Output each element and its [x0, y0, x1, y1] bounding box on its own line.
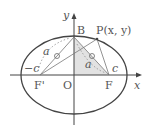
point-P — [96, 38, 99, 41]
ellipse-diagram: y x O B P(x, y) F' F −c c a a — [0, 0, 152, 137]
B-label: B — [77, 24, 85, 37]
a-label-right: a — [85, 58, 92, 71]
F-label: F — [105, 79, 113, 92]
a-label-left: a — [43, 45, 50, 58]
x-axis-arrow-icon — [136, 73, 142, 78]
neg-c-label: −c — [24, 62, 39, 75]
y-axis-arrow-icon — [72, 13, 77, 19]
Fprime-label: F' — [34, 79, 45, 92]
c-label: c — [112, 62, 118, 75]
origin-label: O — [63, 79, 72, 92]
x-axis-label: x — [134, 79, 141, 92]
y-axis-label: y — [62, 9, 70, 22]
P-label: P(x, y) — [96, 24, 131, 37]
